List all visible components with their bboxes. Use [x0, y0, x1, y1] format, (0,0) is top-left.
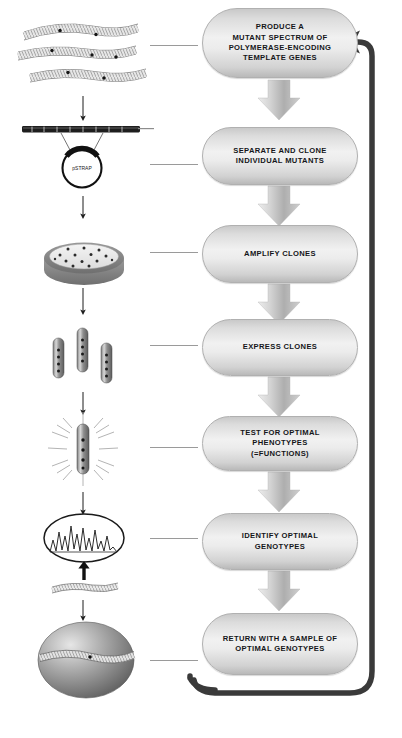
step-line: TEMPLATE GENES [229, 53, 332, 63]
block-arrow-3 [258, 284, 300, 324]
block-arrow-5 [258, 472, 300, 512]
step-line: MUTANT SPECTRUM OF [229, 33, 332, 43]
flowchart-diagram: pSTRAP [0, 0, 402, 738]
process-box-amplify-clones[interactable]: AMPLIFY CLONES [202, 225, 358, 283]
block-arrow-2 [258, 186, 300, 226]
step-line: AMPLIFY CLONES [244, 249, 316, 259]
step-line: IDENTIFY OPTIMAL GENOTYPES [217, 531, 343, 552]
block-arrow-1 [258, 80, 300, 120]
step-line: TEST FOR OPTIMAL PHENOTYPES [217, 428, 343, 449]
process-box-separate-and-clone[interactable]: SEPARATE AND CLONE INDIVIDUAL MUTANTS [202, 127, 358, 185]
process-box-identify-optimal-genotypes[interactable]: IDENTIFY OPTIMAL GENOTYPES [202, 513, 358, 570]
process-box-produce-mutant-spectrum[interactable]: PRODUCE A MUTANT SPECTRUM OF POLYMERASE-… [202, 8, 358, 78]
process-box-return-sample[interactable]: RETURN WITH A SAMPLE OF OPTIMAL GENOTYPE… [202, 613, 358, 675]
block-arrow-6 [258, 571, 300, 611]
step-line: POLYMERASE-ENCODING [229, 43, 332, 53]
step-line: INDIVIDUAL MUTANTS [233, 156, 327, 166]
process-box-express-clones[interactable]: EXPRESS CLONES [202, 319, 358, 376]
step-line: SEPARATE AND CLONE [233, 146, 327, 156]
step-line: RETURN WITH A SAMPLE OF [223, 634, 338, 644]
step-line: OPTIMAL GENOTYPES [223, 644, 338, 654]
process-box-test-optimal-phenotypes[interactable]: TEST FOR OPTIMAL PHENOTYPES (=FUNCTIONS) [202, 416, 358, 471]
block-arrow-4 [258, 377, 300, 417]
step-line: PRODUCE A [229, 22, 332, 32]
step-line: (=FUNCTIONS) [217, 449, 343, 459]
step-line: EXPRESS CLONES [243, 342, 318, 352]
